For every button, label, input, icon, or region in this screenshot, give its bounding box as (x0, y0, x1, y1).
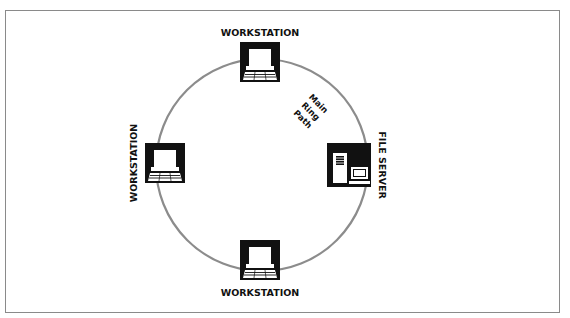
node-label: WORKSTATION (221, 27, 300, 38)
workstation-top[interactable]: WORKSTATION (221, 27, 300, 82)
workstation-icon (145, 143, 185, 183)
node-label: WORKSTATION (128, 124, 139, 203)
node-label: WORKSTATION (221, 287, 300, 298)
workstation-left[interactable]: WORKSTATION (128, 124, 185, 203)
workstation-icon (240, 240, 280, 280)
workstation-icon (240, 42, 280, 82)
file-server[interactable]: FILE SERVER (327, 131, 388, 199)
ring-label: Main Ring Path (291, 92, 330, 131)
network-diagram: WORKSTATION WORKSTATION WORKSTATION FILE… (0, 0, 570, 318)
node-label: FILE SERVER (377, 131, 388, 199)
file-server-icon (327, 143, 371, 187)
